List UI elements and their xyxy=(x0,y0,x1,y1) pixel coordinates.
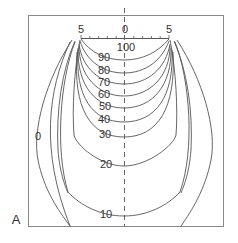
isodose-label-10: 10 xyxy=(100,208,112,220)
ruler-label-left: 5 xyxy=(78,23,84,35)
ruler-label-center: 0 xyxy=(122,23,128,35)
isodose-label-30: 30 xyxy=(99,128,111,140)
isodose-label-60: 60 xyxy=(98,88,110,100)
ruler-label-right: 5 xyxy=(166,23,172,35)
isodose-label-40: 40 xyxy=(98,113,110,125)
ruler xyxy=(81,35,169,39)
isodose-label-20: 20 xyxy=(100,158,112,170)
panel-label: A xyxy=(12,212,21,227)
isodose-label-100: 100 xyxy=(117,41,135,53)
isodose-curve-0-right xyxy=(177,40,212,226)
isodose-label-80: 80 xyxy=(98,64,110,76)
isodose-diagram: 5 0 5 100 90 80 70 60 50 40 30 20 10 0 A xyxy=(0,0,238,243)
penumbra-line-left xyxy=(58,41,75,193)
isodose-label-90: 90 xyxy=(98,51,110,63)
isodose-label-0: 0 xyxy=(35,130,41,142)
isodose-label-50: 50 xyxy=(99,100,111,112)
isodose-label-70: 70 xyxy=(98,76,110,88)
isodose-curve-0-left xyxy=(37,40,72,226)
